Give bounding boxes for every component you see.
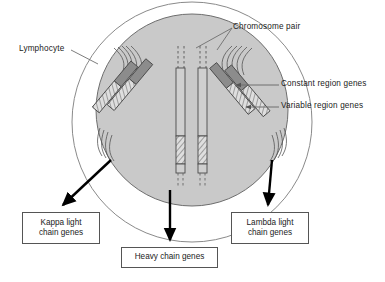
- heavy-terminal-segment-2: [198, 164, 207, 173]
- diagram-canvas: Lymphocyte Chromosome pair Constant regi…: [0, 0, 385, 282]
- gene-box-lambda-line2: chain genes: [247, 228, 294, 239]
- heavy-chromosome-body-2: [198, 68, 207, 136]
- callout-chromosome-pair: Chromosome pair: [233, 22, 300, 31]
- heavy-variable-region-2: [198, 136, 207, 164]
- gene-box-heavy-line1: Heavy chain genes: [135, 252, 205, 263]
- heavy-terminal-segment-1: [176, 164, 185, 173]
- heavy-variable-region-1: [176, 136, 185, 164]
- gene-box-lambda-line1: Lambda light: [247, 218, 294, 229]
- gene-box-heavy: Heavy chain genes: [121, 247, 218, 268]
- callout-lymphocyte: Lymphocyte: [19, 44, 64, 53]
- gene-box-kappa: Kappa light chain genes: [22, 212, 100, 244]
- callout-constant-region-genes: Constant region genes: [281, 79, 367, 88]
- gene-box-kappa-line1: Kappa light: [39, 218, 83, 229]
- callout-variable-region-genes: Variable region genes: [281, 101, 363, 110]
- gene-box-kappa-line2: chain genes: [39, 228, 83, 239]
- gene-box-lambda: Lambda light chain genes: [231, 212, 309, 244]
- heavy-chromosome-body-1: [176, 68, 185, 136]
- arrow-to-kappa: [63, 160, 111, 205]
